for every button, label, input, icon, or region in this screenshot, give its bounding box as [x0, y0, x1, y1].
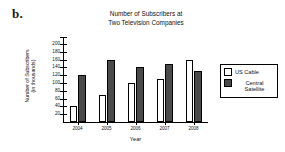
- y-tick-120: [60, 75, 67, 76]
- x-tick-label-2008: 2008: [188, 127, 198, 132]
- y-tick-80: [60, 91, 67, 92]
- bar-2006-central-satellite: [136, 67, 144, 122]
- y-tick-label-40: 40: [55, 104, 60, 109]
- y-tick-200: [60, 44, 67, 45]
- legend-swatch-icon: [224, 79, 232, 87]
- y-tick-label-120: 120: [52, 73, 60, 78]
- y-tick-label-100: 100: [52, 81, 60, 86]
- bar-2007-us-cable: [157, 79, 165, 122]
- x-axis-title: Year: [63, 136, 208, 142]
- y-tick-60: [60, 99, 67, 100]
- x-tick-2007: [165, 122, 166, 125]
- legend-label: US Cable: [235, 68, 259, 75]
- y-tick-20: [60, 114, 67, 115]
- y-tick-label-80: 80: [55, 89, 60, 94]
- x-tick-2005: [107, 122, 108, 125]
- y-tick-180: [60, 52, 67, 53]
- legend-item-central-satellite: Central Satellite: [224, 79, 274, 93]
- y-tick-label-140: 140: [52, 65, 60, 70]
- y-axis-title: Number of Subscribers (in thousands): [24, 41, 36, 111]
- y-tick-label-20: 20: [55, 112, 60, 117]
- legend-item-us-cable: US Cable: [224, 68, 274, 76]
- chart-title: Number of Subscribers at Two Television …: [78, 10, 214, 27]
- x-tick-label-2007: 2007: [159, 127, 169, 132]
- y-axis-top-cap: [60, 37, 67, 38]
- x-tick-label-2004: 2004: [72, 127, 82, 132]
- bar-2005-us-cable: [99, 95, 107, 122]
- x-tick-2008: [194, 122, 195, 125]
- figure: b. Number of Subscribers at Two Televisi…: [0, 0, 285, 152]
- bar-2008-us-cable: [186, 60, 194, 122]
- y-tick-140: [60, 67, 67, 68]
- legend: US CableCentral Satellite: [220, 64, 278, 98]
- x-tick-2004: [78, 122, 79, 125]
- x-tick-label-2005: 2005: [101, 127, 111, 132]
- bar-2008-central-satellite: [194, 71, 202, 122]
- bar-2005-central-satellite: [107, 60, 115, 122]
- bar-2007-central-satellite: [165, 64, 173, 123]
- legend-swatch-icon: [224, 68, 232, 76]
- y-axis-line: [63, 37, 64, 122]
- y-tick-100: [60, 83, 67, 84]
- y-tick-label-200: 200: [52, 42, 60, 47]
- plot-area: 20406080100120140160180200 2004200520062…: [63, 37, 208, 122]
- legend-label: Central Satellite: [235, 79, 274, 93]
- y-tick-label-160: 160: [52, 57, 60, 62]
- x-tick-label-2006: 2006: [130, 127, 140, 132]
- bar-2006-us-cable: [128, 83, 136, 122]
- y-tick-160: [60, 60, 67, 61]
- y-tick-label-180: 180: [52, 50, 60, 55]
- bar-2004-us-cable: [70, 106, 78, 122]
- problem-label: b.: [12, 6, 23, 22]
- y-tick-40: [60, 106, 67, 107]
- x-tick-2006: [136, 122, 137, 125]
- bar-2004-central-satellite: [78, 75, 86, 122]
- y-tick-label-60: 60: [55, 96, 60, 101]
